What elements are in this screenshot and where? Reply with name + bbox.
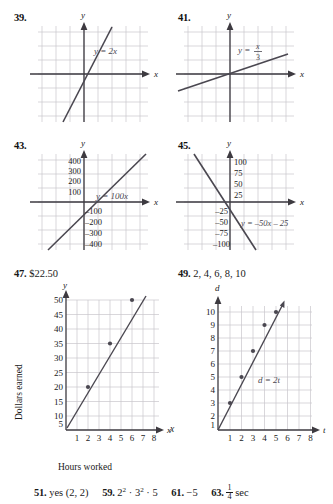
svg-text:20: 20 bbox=[54, 382, 64, 392]
svg-text:–300: –300 bbox=[84, 228, 102, 238]
svg-text:6: 6 bbox=[285, 433, 290, 443]
equation-label-43: y = 100x bbox=[95, 191, 128, 201]
y-tick-labels-negative-45: –25 –50 –75 –100 bbox=[212, 206, 230, 249]
axis-label-y-39: y bbox=[80, 10, 85, 20]
svg-text:7: 7 bbox=[297, 433, 302, 443]
x-axis-arrow-41 bbox=[288, 71, 296, 78]
x-tick-labels-distance: 1 2 3 4 5 6 7 8 bbox=[228, 433, 314, 443]
graph-dollars-earned: 50 45 40 35 30 25 20 15 10 5 1 2 3 4 5 6… bbox=[34, 288, 164, 458]
svg-text:–100: –100 bbox=[212, 239, 230, 249]
svg-text:4: 4 bbox=[108, 433, 113, 443]
svg-text:–100: –100 bbox=[84, 206, 102, 216]
svg-text:8: 8 bbox=[152, 433, 157, 443]
y-axis-arrow-39 bbox=[81, 22, 88, 30]
bottom-answer-row: 51. yes (2, 2) 59. 22 · 32 · 5 61. −5 63… bbox=[34, 484, 260, 502]
line-dollars-earned bbox=[67, 296, 146, 428]
graph-39: y x y = 2x bbox=[38, 22, 148, 122]
svg-text:7: 7 bbox=[141, 433, 146, 443]
problem-number-61: 61. bbox=[171, 487, 184, 498]
axis-label-x-41: x bbox=[299, 69, 304, 79]
graph-distance-time: 10 9 8 7 6 5 4 3 2 1 1 2 3 4 5 6 7 8 bbox=[190, 288, 322, 458]
line-d-equals-2t bbox=[218, 304, 283, 430]
answer-51-value: yes (2, 2) bbox=[49, 487, 88, 498]
x-axis-arrow-distance bbox=[312, 427, 320, 434]
x-axis-arrow-dollars bbox=[156, 427, 164, 434]
axis-label-y-41: y bbox=[226, 10, 231, 20]
svg-text:4: 4 bbox=[211, 385, 216, 395]
stray-axis-label-x: x bbox=[170, 424, 174, 434]
axis-label-y-45: y bbox=[226, 138, 231, 148]
svg-text:8: 8 bbox=[211, 333, 216, 343]
svg-text:100: 100 bbox=[68, 187, 81, 197]
grid-lines-dollars bbox=[66, 300, 159, 430]
answer-49-value: 2, 4, 6, 8, 10 bbox=[193, 268, 246, 279]
answer-51: 51. yes (2, 2) bbox=[34, 487, 91, 498]
svg-text:–75: –75 bbox=[214, 228, 228, 238]
y-axis-arrow-45 bbox=[227, 150, 234, 158]
equation-label-39: y = 2x bbox=[93, 46, 117, 56]
equation-label-45: y = –50x – 25 bbox=[240, 218, 288, 228]
axis-label-x-43: x bbox=[153, 197, 158, 207]
svg-text:1: 1 bbox=[228, 433, 233, 443]
svg-text:7: 7 bbox=[211, 346, 216, 356]
svg-text:30: 30 bbox=[54, 353, 64, 363]
answer-47: 47. $22.50 bbox=[14, 268, 58, 279]
svg-text:–400: –400 bbox=[84, 239, 102, 249]
line-y-equals-x-over-3 bbox=[178, 54, 288, 91]
fraction-one-quarter: 14 bbox=[226, 484, 232, 502]
svg-text:5: 5 bbox=[211, 372, 216, 382]
svg-text:5: 5 bbox=[119, 433, 124, 443]
problem-number-39: 39. bbox=[14, 12, 27, 23]
axis-label-x-45: x bbox=[299, 197, 304, 207]
problem-number-63: 63. bbox=[211, 487, 224, 498]
svg-text:1: 1 bbox=[75, 433, 80, 443]
x-axis-arrow-39 bbox=[142, 71, 150, 78]
svg-text:15: 15 bbox=[54, 397, 64, 407]
problem-number-43: 43. bbox=[14, 140, 27, 151]
answer-47-value: $22.50 bbox=[29, 268, 58, 279]
svg-text:3: 3 bbox=[256, 53, 260, 62]
x-tick-labels-dollars: 1 2 3 4 5 6 7 8 bbox=[75, 433, 157, 443]
svg-text:400: 400 bbox=[68, 156, 81, 166]
svg-text:35: 35 bbox=[54, 339, 64, 349]
svg-text:–50: –50 bbox=[214, 217, 228, 227]
answer-63-unit: sec bbox=[235, 487, 248, 498]
axis-label-x-39: x bbox=[153, 69, 158, 79]
y-axis-arrow-dollars bbox=[63, 290, 70, 298]
x-axis-arrow-45 bbox=[288, 199, 296, 206]
x-axis-arrow-43 bbox=[142, 199, 150, 206]
y-tick-labels-negative-43: –100 –200 –300 –400 bbox=[84, 206, 102, 249]
problem-number-51: 51. bbox=[34, 487, 47, 498]
answer-63: 63. 14 sec bbox=[211, 487, 248, 498]
axis-label-d-distance: d bbox=[215, 283, 220, 293]
problem-number-59: 59. bbox=[102, 487, 115, 498]
answer-59-value: 22 · 32 · 5 bbox=[117, 487, 157, 498]
svg-text:75: 75 bbox=[234, 168, 243, 178]
axis-label-y-43: y bbox=[80, 138, 85, 148]
svg-text:50: 50 bbox=[54, 295, 64, 305]
graph-43: y x 400 300 200 100 –100 –200 –300 –400 … bbox=[38, 150, 148, 250]
answer-key-page: 39. bbox=[0, 0, 333, 504]
svg-text:1: 1 bbox=[211, 420, 216, 430]
axis-caption-hours-worked: Hours worked bbox=[58, 462, 112, 472]
y-tick-labels-distance: 10 9 8 7 6 5 4 3 2 1 bbox=[206, 307, 216, 430]
y-tick-labels-dollars: 50 45 40 35 30 25 20 15 10 5 bbox=[54, 295, 64, 429]
svg-text:25: 25 bbox=[54, 368, 64, 378]
svg-text:x: x bbox=[255, 42, 260, 51]
axis-label-t-distance: t bbox=[323, 425, 326, 435]
svg-text:–200: –200 bbox=[84, 217, 102, 227]
answer-61-value: −5 bbox=[186, 487, 197, 498]
problem-number-47: 47. bbox=[14, 268, 27, 279]
svg-text:40: 40 bbox=[54, 324, 64, 334]
axis-label-y-dollars: y bbox=[62, 280, 67, 290]
svg-text:45: 45 bbox=[54, 310, 64, 320]
y-tick-labels-positive-45: 100 75 50 25 bbox=[234, 157, 247, 200]
graph-45: y x 100 75 50 25 –25 –50 –75 –100 y = –5… bbox=[184, 150, 294, 250]
answer-49: 49. 2, 4, 6, 8, 10 bbox=[178, 268, 246, 279]
equation-label-distance: d = 2t bbox=[258, 375, 281, 385]
svg-text:2: 2 bbox=[239, 433, 244, 443]
answer-59: 59. 22 · 32 · 5 bbox=[102, 487, 160, 498]
svg-text:300: 300 bbox=[68, 166, 81, 176]
y-axis-arrow-43 bbox=[81, 150, 88, 158]
graph-41: y x y = x 3 bbox=[184, 22, 294, 122]
